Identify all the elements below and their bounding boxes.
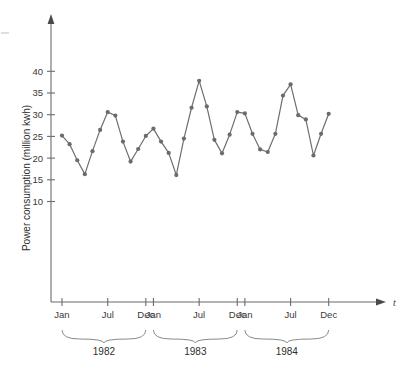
year-brace [153, 330, 237, 343]
year-brace-group: 198219831984 [62, 330, 329, 357]
y-tick-label: 40 [32, 66, 43, 77]
data-point-marker [235, 110, 239, 114]
data-point-marker [228, 133, 232, 137]
y-axis-title: Power consumption (million kwh) [21, 105, 32, 251]
data-point-marker [167, 151, 171, 155]
y-tick-label: 25 [32, 131, 43, 142]
data-point-marker [68, 142, 72, 146]
x-axis [51, 299, 386, 306]
data-series [60, 79, 331, 177]
data-point-marker [296, 113, 300, 117]
chart-canvas: 10152025303540 JanJulDecJanJulDecJanJulD… [0, 0, 407, 368]
data-point-marker [144, 134, 148, 138]
data-point-marker [197, 79, 201, 83]
data-point-marker [319, 132, 323, 136]
x-axis-title: t [393, 297, 396, 308]
x-month-label: Jan [54, 309, 69, 320]
x-month-label: Jul [193, 309, 205, 320]
data-point-marker [98, 128, 102, 132]
data-point-marker [189, 106, 193, 110]
data-point-marker [106, 110, 110, 114]
x-month-label: Dec [320, 309, 337, 320]
data-point-marker [311, 153, 315, 157]
x-month-label: Jul [102, 309, 114, 320]
data-point-marker [289, 82, 293, 86]
data-point-marker [113, 113, 117, 117]
year-brace [245, 330, 329, 343]
year-label: 1983 [184, 346, 207, 357]
year-brace [62, 330, 146, 343]
y-axis-arrow-icon [48, 14, 55, 24]
x-month-label-group: JanJulDecJanJulDecJanJulDec [54, 309, 337, 320]
data-point-marker [182, 136, 186, 140]
data-point-marker [304, 117, 308, 121]
x-month-label: Jan [237, 309, 252, 320]
data-point-marker [83, 172, 87, 176]
data-point-marker [60, 133, 64, 137]
data-point-marker [174, 173, 178, 177]
data-point-marker [121, 140, 125, 144]
data-point-marker [75, 158, 79, 162]
data-point-marker [136, 147, 140, 151]
y-tick-label: 30 [32, 109, 43, 120]
data-point-marker [90, 149, 94, 153]
y-tick-label: 20 [32, 153, 43, 164]
y-tick-label: 15 [32, 174, 43, 185]
data-point-marker [266, 150, 270, 154]
power-consumption-chart: 10152025303540 JanJulDecJanJulDecJanJulD… [0, 0, 407, 368]
data-point-marker [281, 94, 285, 98]
x-axis-arrow-icon [376, 299, 386, 306]
y-tick-group: 10152025303540 [32, 66, 55, 207]
data-point-marker [250, 132, 254, 136]
data-point-marker [220, 151, 224, 155]
data-point-marker [243, 111, 247, 115]
y-tick-label: 10 [32, 196, 43, 207]
x-month-label: Jan [146, 309, 161, 320]
y-tick-label: 35 [32, 87, 43, 98]
year-label: 1984 [276, 346, 299, 357]
data-point-marker [151, 126, 155, 130]
x-month-label: Jul [285, 309, 297, 320]
data-point-marker [327, 112, 331, 116]
data-point-marker [128, 159, 132, 163]
series-line [62, 81, 329, 175]
data-point-marker [205, 104, 209, 108]
data-point-marker [212, 138, 216, 142]
data-point-marker [273, 132, 277, 136]
data-point-marker [258, 147, 262, 151]
year-label: 1982 [93, 346, 116, 357]
data-point-marker [159, 140, 163, 144]
